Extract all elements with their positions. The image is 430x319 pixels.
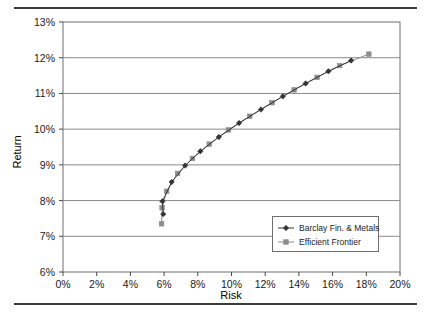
x-tick-label: 16% <box>322 278 343 290</box>
risk-return-scatter-chart: 0%2%4%6%8%10%12%14%16%18%20% 6%7%8%9%10%… <box>0 0 430 319</box>
y-tick-label: 8% <box>40 195 55 207</box>
series-marker <box>367 52 372 57</box>
x-tick-label: 4% <box>123 278 138 290</box>
y-tick-label: 7% <box>40 230 55 242</box>
x-tick-label: 18% <box>356 278 377 290</box>
x-tick-label: 6% <box>157 278 172 290</box>
x-axis-tick-marks <box>63 272 400 276</box>
x-tick-label: 14% <box>288 278 309 290</box>
y-axis-title: Return <box>11 135 23 168</box>
series-marker <box>159 221 164 226</box>
x-axis-title: Risk <box>220 289 242 301</box>
x-tick-label: 2% <box>89 278 104 290</box>
y-tick-label: 12% <box>34 52 55 64</box>
legend-label: Efficient Frontier <box>299 237 361 247</box>
y-tick-label: 11% <box>35 87 55 99</box>
x-tick-label: 8% <box>190 278 205 290</box>
y-tick-label: 6% <box>40 266 55 278</box>
x-tick-label: 20% <box>389 278 410 290</box>
y-axis-tick-labels: 6%7%8%9%10%11%12%13% <box>34 16 55 278</box>
y-tick-label: 13% <box>34 16 55 28</box>
y-tick-label: 10% <box>34 123 55 135</box>
y-axis-tick-marks <box>59 22 63 272</box>
y-tick-label: 9% <box>40 159 55 171</box>
x-tick-label: 12% <box>255 278 276 290</box>
series-marker <box>160 205 165 210</box>
x-tick-label: 0% <box>55 278 70 290</box>
legend-marker-icon <box>284 240 289 245</box>
chart-figure: 0%2%4%6%8%10%12%14%16%18%20% 6%7%8%9%10%… <box>0 0 430 319</box>
legend-label: Barclay Fin. & Metals <box>299 223 379 233</box>
chart-legend[interactable]: Barclay Fin. & MetalsEfficient Frontier <box>273 217 380 252</box>
